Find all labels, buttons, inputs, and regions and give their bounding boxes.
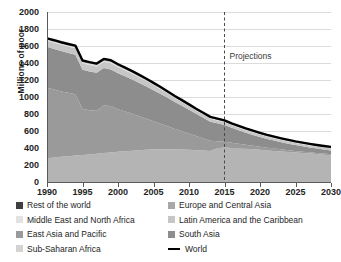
y-tick-label: 1200 [19,76,39,85]
legend-item-label: Sub-Saharan Africa [27,244,101,254]
legend-color-swatch [16,216,23,223]
legend-item[interactable]: East Asia and Pacific [16,229,168,239]
x-tick-label: 1990 [37,188,57,197]
projections-label: Projections [230,51,272,61]
legend-item[interactable]: Europe and Central Asia [168,200,336,210]
legend-item-label: World [185,244,207,254]
x-tick-label: 2015 [214,188,234,197]
x-tick-label: 2000 [108,188,128,197]
legend-item[interactable]: Middle East and North Africa [16,215,168,225]
y-tick-label: 0 [34,178,39,187]
y-tick-label: 400 [24,144,39,153]
x-tick-label: 2025 [285,188,305,197]
y-tick-label: 800 [24,110,39,119]
x-tick-label: 2010 [179,188,199,197]
chart-legend: Rest of the worldEurope and Central Asia… [16,198,336,258]
legend-item-label: Rest of the world [27,200,91,210]
legend-color-swatch [16,245,23,252]
legend-item-label: Europe and Central Asia [179,200,271,210]
legend-item-label: East Asia and Pacific [27,229,106,239]
stacked-areas [47,12,331,182]
x-tick-label: 2005 [143,188,163,197]
x-tick-label: 1995 [72,188,92,197]
legend-item-label: South Asia [179,229,220,239]
legend-item[interactable]: South Asia [168,229,336,239]
legend-color-swatch [168,202,175,209]
y-tick-label: 1800 [19,25,39,34]
legend-item[interactable]: Rest of the world [16,200,168,210]
y-tick-label: 600 [24,127,39,136]
legend-item[interactable]: World [168,244,336,254]
y-axis-ticks: 0200400600800100012001400160018002000 [0,12,44,182]
legend-line-swatch [168,248,180,250]
y-tick-label: 2000 [19,8,39,17]
legend-color-swatch [16,231,23,238]
legend-color-swatch [16,202,23,209]
legend-color-swatch [168,231,175,238]
plot-area [47,12,331,182]
legend-item[interactable]: Sub-Saharan Africa [16,244,168,254]
y-axis-line [47,12,48,183]
legend-item-label: Latin America and the Caribbean [179,215,303,225]
legend-item-label: Middle East and North Africa [27,215,135,225]
legend-item[interactable]: Latin America and the Caribbean [168,215,336,225]
y-tick-label: 1000 [19,93,39,102]
x-tick-label: 2020 [250,188,270,197]
x-tick-label: 2030 [321,188,341,197]
y-tick-label: 200 [24,161,39,170]
y-tick-label: 1400 [19,59,39,68]
legend-color-swatch [168,216,175,223]
y-tick-label: 1600 [19,42,39,51]
